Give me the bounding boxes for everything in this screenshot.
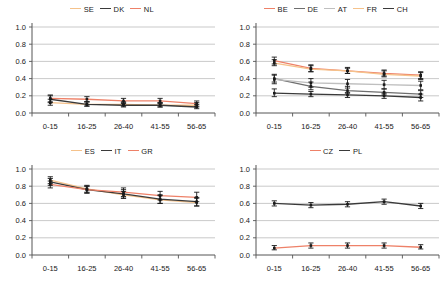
xtick-label: 41-55 [151,122,170,131]
xtick-label: 26-40 [338,122,357,131]
ytick-label: 0.6 [240,199,250,208]
ytick-label: 0.2 [240,233,250,242]
xtick-label: 41-55 [151,264,170,273]
chart-panel-southern: ESITGR0.00.20.40.60.81.00-1516-2526-4041… [0,142,224,284]
xtick-label: 0-15 [267,122,282,131]
xtick-label: 56-65 [411,122,430,131]
xtick-label: 56-65 [411,264,430,273]
ytick-label: 0.0 [16,251,26,260]
ytick-label: 0.8 [240,182,250,191]
xtick-label: 56-65 [187,264,206,273]
ytick-label: 0.0 [240,251,250,260]
xtick-label: 16-25 [77,122,96,131]
xtick-label: 41-55 [375,264,394,273]
ytick-label: 0.2 [16,91,26,100]
ytick-label: 0.4 [240,216,250,225]
plot-area-central: 0.00.20.40.60.81.00-1516-2526-4041-5556-… [224,142,448,284]
plot-area-western: 0.00.20.40.60.81.00-1516-2526-4041-5556-… [224,0,448,142]
chart-panel-western: BEDEATFRCH0.00.20.40.60.81.00-1516-2526-… [224,0,448,142]
ytick-label: 0.6 [16,57,26,66]
ytick-label: 0.0 [240,109,250,118]
xtick-label: 16-25 [301,122,320,131]
xtick-label: 16-25 [301,264,320,273]
ytick-label: 0.4 [16,216,26,225]
ytick-label: 0.8 [16,182,26,191]
plot-area-southern: 0.00.20.40.60.81.00-1516-2526-4041-5556-… [0,142,224,284]
ytick-label: 1.0 [16,23,26,32]
xtick-label: 0-15 [267,264,282,273]
xtick-label: 26-40 [338,264,357,273]
ytick-label: 0.0 [16,109,26,118]
ytick-label: 0.4 [240,74,250,83]
ytick-label: 0.8 [240,40,250,49]
ytick-label: 0.2 [240,91,250,100]
xtick-label: 26-40 [114,264,133,273]
xtick-label: 41-55 [375,122,394,131]
ytick-label: 1.0 [16,165,26,174]
figure-grid: SEDKNL0.00.20.40.60.81.00-1516-2526-4041… [0,0,448,284]
chart-panel-nordic: SEDKNL0.00.20.40.60.81.00-1516-2526-4041… [0,0,224,142]
ytick-label: 0.6 [16,199,26,208]
ytick-label: 1.0 [240,165,250,174]
ytick-label: 1.0 [240,23,250,32]
ytick-label: 0.4 [16,74,26,83]
plot-area-nordic: 0.00.20.40.60.81.00-1516-2526-4041-5556-… [0,0,224,142]
xtick-label: 0-15 [43,122,58,131]
ytick-label: 0.2 [16,233,26,242]
xtick-label: 0-15 [43,264,58,273]
chart-panel-central: CZPL0.00.20.40.60.81.00-1516-2526-4041-5… [224,142,448,284]
ytick-label: 0.6 [240,57,250,66]
xtick-label: 56-65 [187,122,206,131]
xtick-label: 16-25 [77,264,96,273]
ytick-label: 0.8 [16,40,26,49]
xtick-label: 26-40 [114,122,133,131]
